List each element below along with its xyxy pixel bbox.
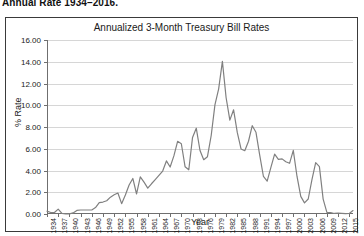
x-tick-label: 1955 <box>128 218 135 234</box>
x-tick-mark <box>193 214 194 217</box>
x-tick-mark <box>181 214 182 217</box>
x-tick-label: 1949 <box>106 218 113 234</box>
x-tick-label: 1943 <box>84 218 91 234</box>
x-tick-label: 1946 <box>95 218 102 234</box>
x-tick-mark <box>226 214 227 217</box>
x-tick-label: 2015 <box>352 218 359 234</box>
x-tick-mark <box>170 214 171 217</box>
figure-caption: Annual Rate 1934–2016. <box>2 0 118 8</box>
chart-title: Annualized 3-Month Treasury Bill Rates <box>6 22 357 33</box>
x-tick-label: 2003 <box>307 218 314 234</box>
y-tick-label: 2.00 <box>25 188 41 197</box>
x-tick-label: 1988 <box>252 218 259 234</box>
y-tick-label: 16.00 <box>21 36 41 45</box>
x-tick-label: 2006 <box>319 218 326 234</box>
chart-frame: Annualized 3-Month Treasury Bill Rates %… <box>5 17 358 232</box>
x-tick-mark <box>271 214 272 217</box>
y-tick-label: 14.00 <box>21 57 41 66</box>
x-tick-mark <box>137 214 138 217</box>
x-tick-mark <box>304 214 305 217</box>
x-tick-mark <box>92 214 93 217</box>
series-line <box>47 61 353 213</box>
x-tick-label: 1940 <box>72 218 79 234</box>
x-tick-mark <box>282 214 283 217</box>
y-tick-label: 10.00 <box>21 101 41 110</box>
x-tick-label: 2000 <box>296 218 303 234</box>
x-tick-label: 1973 <box>196 218 203 234</box>
x-tick-mark <box>327 214 328 217</box>
x-tick-mark <box>159 214 160 217</box>
x-tick-label: 1958 <box>140 218 147 234</box>
x-tick-label: 1985 <box>240 218 247 234</box>
x-tick-label: 2009 <box>330 218 337 234</box>
x-tick-label: 1979 <box>218 218 225 234</box>
x-tick-label: 1934 <box>50 218 57 234</box>
x-tick-label: 1976 <box>207 218 214 234</box>
x-tick-mark <box>204 214 205 217</box>
x-tick-mark <box>349 214 350 217</box>
x-tick-mark <box>249 214 250 217</box>
plot-area: 0.002.004.006.008.0010.0012.0014.0016.00… <box>47 40 353 214</box>
x-tick-mark <box>338 214 339 217</box>
x-tick-mark <box>215 214 216 217</box>
x-tick-mark <box>237 214 238 217</box>
x-tick-mark <box>316 214 317 217</box>
x-tick-mark <box>81 214 82 217</box>
x-tick-label: 1964 <box>162 218 169 234</box>
x-tick-mark <box>293 214 294 217</box>
x-tick-label: 1937 <box>61 218 68 234</box>
chart-screenshot: Annual Rate 1934–2016. Annualized 3-Mont… <box>0 0 364 236</box>
x-tick-label: 1967 <box>173 218 180 234</box>
x-tick-label: 2012 <box>341 218 348 234</box>
y-tick-label: 8.00 <box>25 123 41 132</box>
x-tick-label: 1952 <box>117 218 124 234</box>
x-tick-mark <box>103 214 104 217</box>
x-tick-mark <box>260 214 261 217</box>
y-tick-label: 12.00 <box>21 79 41 88</box>
x-tick-mark <box>114 214 115 217</box>
x-tick-label: 1991 <box>263 218 270 234</box>
x-tick-mark <box>125 214 126 217</box>
x-tick-label: 1982 <box>229 218 236 234</box>
y-tick-label: 0.00 <box>25 210 41 219</box>
x-tick-mark <box>58 214 59 217</box>
x-tick-mark <box>47 214 48 217</box>
x-tick-label: 1997 <box>285 218 292 234</box>
y-tick-label: 4.00 <box>25 166 41 175</box>
x-tick-mark <box>148 214 149 217</box>
x-tick-label: 1994 <box>274 218 281 234</box>
x-tick-label: 1970 <box>184 218 191 234</box>
x-tick-label: 1961 <box>151 218 158 234</box>
y-tick-label: 6.00 <box>25 144 41 153</box>
data-line-series <box>47 40 353 214</box>
